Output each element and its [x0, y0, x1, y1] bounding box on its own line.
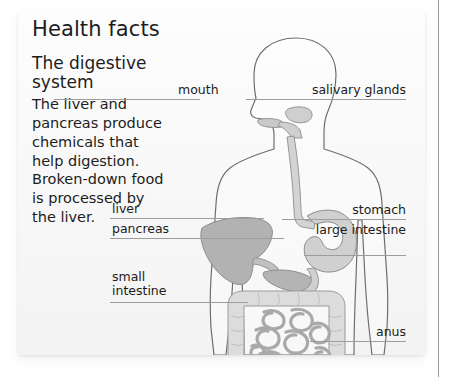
label-small-intestine-line1: small intestine — [112, 269, 167, 298]
text-column: Health facts The digestive system The li… — [32, 18, 172, 227]
leader-line-small-intestine — [110, 302, 248, 303]
body-text: The liver and pancreas produce chemicals… — [32, 95, 164, 227]
leader-line-anus — [310, 341, 406, 342]
label-large-intestine-text: large intestine — [316, 222, 406, 237]
leader-line-large-intestine — [304, 255, 406, 256]
label-anus: anus — [336, 325, 406, 339]
label-stomach: stomach — [306, 203, 406, 217]
digestive-system-diagram — [168, 10, 425, 355]
leader-line-liver — [110, 218, 264, 219]
label-pancreas: pancreas — [112, 222, 169, 236]
health-facts-card: Health facts The digestive system The li… — [18, 10, 425, 355]
page-gutter-line — [438, 0, 439, 377]
label-liver: liver — [112, 202, 139, 216]
leader-line-pancreas — [110, 238, 284, 239]
section-title: The digestive system — [32, 54, 172, 92]
anatomy-svg — [168, 10, 425, 355]
label-small-intestine: small intestine — [112, 270, 182, 298]
leader-line-mouth — [54, 99, 200, 100]
page-title: Health facts — [32, 18, 172, 40]
label-mouth: mouth — [178, 83, 219, 97]
label-salivary-glands: salivary glands — [286, 83, 406, 97]
leader-line-stomach — [282, 219, 406, 220]
leader-line-salivary-glands — [246, 99, 406, 100]
label-large-intestine: large intestine — [306, 223, 406, 237]
